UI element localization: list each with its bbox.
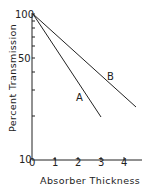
series-a-line	[33, 14, 101, 117]
y-tick-label-100: 100	[15, 9, 34, 20]
x-tick-label-2: 2	[75, 157, 81, 168]
chart: 100 50 10 0 1 2 3 4 A B Absorber Thickne…	[0, 0, 150, 192]
x-tick-label-0: 0	[29, 157, 35, 168]
x-tick-label-1: 1	[52, 157, 58, 168]
series-a-label: A	[76, 92, 83, 103]
series-b-label: B	[107, 71, 114, 82]
x-tick-label-4: 4	[121, 157, 127, 168]
x-tick-label-3: 3	[98, 157, 104, 168]
y-axis-title: Percent Transmission	[7, 24, 18, 132]
series-b-line	[33, 14, 136, 107]
x-axis-title: Absorber Thickness	[40, 175, 140, 186]
y-tick-label-50: 50	[18, 53, 31, 64]
